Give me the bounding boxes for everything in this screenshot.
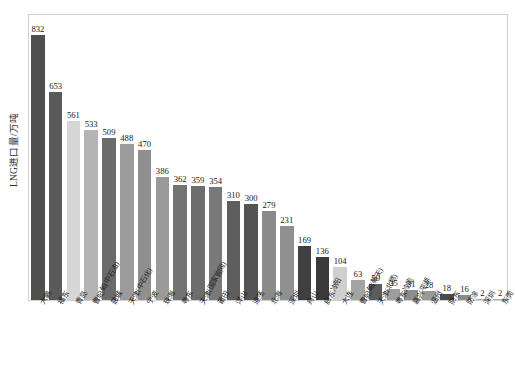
bar-16[interactable]: 169: [296, 15, 314, 300]
bar-9[interactable]: 362: [171, 15, 189, 300]
bar-value-label: 169: [298, 236, 311, 245]
bar-value-label: 354: [209, 177, 222, 186]
bar-27[interactable]: 2: [491, 15, 509, 300]
bar-8[interactable]: 386: [153, 15, 171, 300]
bar-value-label: 509: [103, 128, 116, 137]
bar-value-label: 231: [280, 216, 293, 225]
x-axis-tick-labels: 大鹏福东青岛曹妃甸(中石油)盐城天津(中石化)宁波珠海粤东天津(国家管网)莆田洋…: [28, 302, 508, 376]
plot-area: 8326535615335094884703863623593543103002…: [28, 14, 508, 301]
bar-13[interactable]: 300: [242, 15, 260, 300]
bar-4[interactable]: 533: [82, 15, 100, 300]
bar-1[interactable]: 832: [29, 15, 47, 300]
bar-rect[interactable]: [244, 204, 258, 300]
bar-value-label: 300: [245, 194, 258, 203]
bar-value-label: 488: [120, 134, 133, 143]
bar-rect[interactable]: [49, 92, 63, 300]
bar-value-label: 561: [67, 111, 80, 120]
y-axis-label: LNG进口量/万吨: [0, 0, 26, 300]
bar-value-label: 470: [138, 140, 151, 149]
bar-23[interactable]: 28: [420, 15, 438, 300]
bar-2[interactable]: 653: [47, 15, 65, 300]
bar-rect[interactable]: [262, 211, 276, 300]
bar-3[interactable]: 561: [65, 15, 83, 300]
bar-24[interactable]: 18: [438, 15, 456, 300]
bar-18[interactable]: 104: [331, 15, 349, 300]
bar-value-label: 386: [156, 167, 169, 176]
bar-series: 8326535615335094884703863623593543103002…: [29, 15, 507, 300]
bar-rect[interactable]: [227, 201, 241, 300]
bar-15[interactable]: 231: [278, 15, 296, 300]
bar-rect[interactable]: [67, 121, 81, 300]
bar-value-label: 533: [85, 120, 98, 129]
bar-value-label: 63: [354, 270, 363, 279]
bar-5[interactable]: 509: [100, 15, 118, 300]
bar-value-label: 359: [191, 176, 204, 185]
bar-value-label: 104: [334, 257, 347, 266]
bar-rect[interactable]: [84, 130, 98, 300]
bar-value-label: 310: [227, 191, 240, 200]
bar-14[interactable]: 279: [260, 15, 278, 300]
bar-10[interactable]: 359: [189, 15, 207, 300]
bar-26[interactable]: 2: [473, 15, 491, 300]
bar-rect[interactable]: [120, 144, 134, 300]
bar-rect[interactable]: [191, 186, 205, 300]
bar-6[interactable]: 488: [118, 15, 136, 300]
bar-11[interactable]: 354: [207, 15, 225, 300]
y-axis-label-text: LNG进口量/万吨: [6, 113, 20, 187]
bar-value-label: 362: [174, 175, 187, 184]
bar-21[interactable]: 35: [385, 15, 403, 300]
bar-value-label: 279: [263, 201, 276, 210]
bar-17[interactable]: 136: [313, 15, 331, 300]
bar-20[interactable]: 50: [367, 15, 385, 300]
bar-25[interactable]: 16: [456, 15, 474, 300]
bar-value-label: 653: [49, 82, 62, 91]
bar-7[interactable]: 470: [136, 15, 154, 300]
bar-rect[interactable]: [156, 177, 170, 300]
bar-value-label: 136: [316, 247, 329, 256]
bar-rect[interactable]: [31, 35, 45, 300]
bar-value-label: 18: [442, 284, 451, 293]
bar-22[interactable]: 31: [402, 15, 420, 300]
bar-19[interactable]: 63: [349, 15, 367, 300]
bar-12[interactable]: 310: [225, 15, 243, 300]
bar-value-label: 832: [31, 25, 44, 34]
bar-rect[interactable]: [280, 226, 294, 300]
bar-rect[interactable]: [173, 185, 187, 300]
